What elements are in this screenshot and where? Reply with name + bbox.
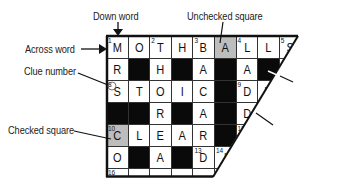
white-square[interactable] [280,81,301,103]
clue-number: 16 [108,169,115,176]
label-clue-number: Clue number [24,65,76,77]
cell-letter: S [109,84,127,99]
white-square[interactable]: 13D [193,147,215,169]
cell-letter: T [152,40,170,55]
cell-letter: B [195,40,213,55]
white-square[interactable] [280,169,301,176]
crossword-grid: 1MO2TH3BA4LL5SRHAA8STOIC9DRRAD10CLEAR11E… [107,37,301,176]
cell-letter: M [109,40,127,55]
white-square[interactable]: I [172,81,194,103]
black-square [129,103,151,125]
white-square[interactable]: O [150,81,172,103]
across-arrow-icon [99,44,107,54]
cell-letter: A [217,40,235,55]
cell-letter: A [195,62,213,77]
white-square[interactable] [258,125,280,147]
cell-letter: L [238,40,256,55]
cell-letter: I [173,84,191,99]
white-square[interactable] [215,169,237,176]
white-square[interactable]: 3B [193,37,215,59]
white-square[interactable]: A [193,103,215,125]
white-square[interactable] [237,169,259,176]
white-square[interactable]: A [237,59,259,81]
cell-letter: S [281,40,299,55]
cell-letter: R [260,84,278,99]
shaded-square[interactable]: 10C [107,125,129,147]
cell-letter: O [130,40,148,55]
black-square [258,103,280,125]
cell-letter: O [109,150,127,165]
shaded-square[interactable]: A [215,37,237,59]
white-square[interactable]: A [172,125,194,147]
cell-letter: R [152,106,170,121]
white-square[interactable]: A [150,147,172,169]
label-checked-square: Checked square [8,124,74,136]
white-square[interactable]: L [129,125,151,147]
cell-letter: A [238,62,256,77]
white-square[interactable]: O [129,37,151,59]
label-across-word: Across word [25,43,75,55]
white-square[interactable]: R [193,125,215,147]
white-square[interactable] [258,169,280,176]
cell-letter: D [238,84,256,99]
black-square [172,103,194,125]
white-square[interactable] [129,169,151,176]
white-square[interactable]: R [258,81,280,103]
cell-letter: D [195,150,213,165]
cell-letter: E [238,128,256,143]
white-square[interactable]: 2T [150,37,172,59]
white-square[interactable] [280,103,301,125]
cell-letter: L [130,128,148,143]
down-arrow-icon [113,29,123,36]
crossword-diagram: Down word Across word Clue number Checke… [0,0,345,189]
cell-letter: A [195,106,213,121]
black-square [129,59,151,81]
black-square [215,81,237,103]
white-square[interactable]: T [129,81,151,103]
label-down-word: Down word [93,10,138,22]
black-square [215,125,237,147]
white-square[interactable] [280,125,301,147]
cell-letter: E [152,128,170,143]
white-square[interactable] [280,147,301,169]
cell-letter: L [260,40,278,55]
white-square[interactable] [172,169,194,176]
cell-letter: A [173,128,191,143]
white-square[interactable]: 1M [107,37,129,59]
white-square[interactable] [193,169,215,176]
white-square[interactable]: 8S [107,81,129,103]
black-square [107,103,129,125]
white-square[interactable] [258,147,280,169]
black-square [258,59,280,81]
black-square [172,147,194,169]
cell-letter: H [173,40,191,55]
white-square[interactable]: L [258,37,280,59]
white-square[interactable]: 9D [237,81,259,103]
white-square[interactable] [237,147,259,169]
white-square[interactable]: O [107,147,129,169]
cell-letter: R [109,62,127,77]
white-square[interactable]: 5S [280,37,301,59]
white-square[interactable]: 14I [215,147,237,169]
white-square[interactable]: 11E [237,125,259,147]
white-square[interactable] [150,169,172,176]
white-square[interactable]: R [150,103,172,125]
black-square [172,59,194,81]
white-square[interactable] [280,59,301,81]
white-square[interactable]: A [193,59,215,81]
cell-letter: I [217,150,235,165]
white-square[interactable]: 16 [107,169,129,176]
white-square[interactable]: R [107,59,129,81]
cell-letter: R [195,128,213,143]
cell-letter: T [130,84,148,99]
cell-letter: H [152,62,170,77]
black-square [129,147,151,169]
white-square[interactable]: E [150,125,172,147]
white-square[interactable]: D [237,103,259,125]
white-square[interactable]: H [172,37,194,59]
cell-letter: C [195,84,213,99]
white-square[interactable]: H [150,59,172,81]
white-square[interactable]: C [193,81,215,103]
label-unchecked-square: Unchecked square [187,10,263,22]
white-square[interactable]: 4L [237,37,259,59]
